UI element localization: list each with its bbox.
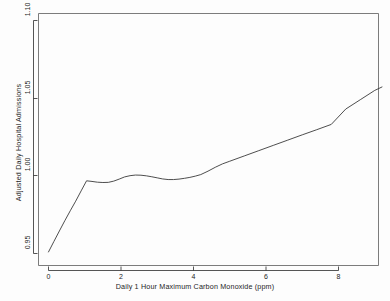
- y-tick-label-2: 1.05: [24, 76, 31, 98]
- x-tick-label-1: 2: [119, 273, 123, 280]
- y-axis-title: Adjusted Daily Hospital Admissions: [14, 63, 23, 223]
- x-tick-label-0: 0: [47, 273, 51, 280]
- x-tick-label-3: 6: [264, 273, 268, 280]
- x-tick-label-2: 4: [192, 273, 196, 280]
- x-axis-title: Daily 1 Hour Maximum Carbon Monoxide (pp…: [0, 282, 390, 291]
- y-tick-label-1: 1.00: [24, 153, 31, 175]
- y-tick-label-3: 1.10: [24, 0, 31, 20]
- plot-frame: [39, 14, 379, 266]
- x-axis: [49, 267, 339, 271]
- data-series-line: [49, 87, 383, 252]
- line-chart-plot: [0, 0, 390, 301]
- x-tick-label-4: 8: [337, 273, 341, 280]
- y-tick-label-0: 0.95: [24, 231, 31, 253]
- y-axis: [34, 21, 38, 254]
- figure-canvas: 0 2 4 6 8 0.95 1.00 1.05 1.10 Daily 1 Ho…: [0, 0, 390, 301]
